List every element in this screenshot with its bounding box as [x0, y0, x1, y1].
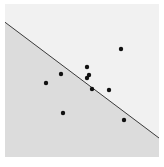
data-point: [85, 65, 89, 69]
data-point: [119, 47, 123, 51]
data-point: [85, 76, 89, 80]
data-point: [107, 88, 111, 92]
data-point: [44, 81, 48, 85]
scatter-diagram: [0, 0, 164, 167]
data-point: [61, 111, 65, 115]
data-point: [122, 118, 126, 122]
data-point: [90, 87, 94, 91]
data-point: [59, 72, 63, 76]
